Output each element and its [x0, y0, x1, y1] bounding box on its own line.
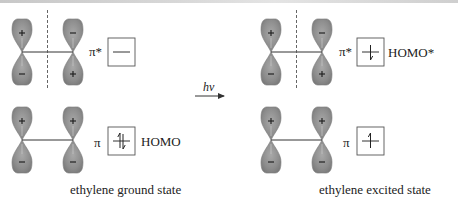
- ground-pi-electron-box: [108, 127, 135, 155]
- ground-pi-left-bottom-lobe: [12, 140, 32, 173]
- ground-pi-star-left-bottom-lobe: [12, 52, 32, 85]
- ground-pi-star-electron-box: [108, 38, 135, 66]
- ground-pi-orbital: [12, 107, 83, 173]
- excited-pi-star-label: π*: [339, 45, 352, 58]
- excited-pi-star-right-bottom-lobe: [312, 52, 332, 85]
- excited-pi-left-bottom-lobe: [261, 140, 281, 173]
- ground-pi-right-bottom-lobe: [63, 140, 83, 173]
- ground-pi-label: π: [94, 136, 101, 149]
- ground-homo-label: HOMO: [141, 135, 181, 148]
- excited-pi-right-bottom-lobe: [312, 140, 332, 173]
- excited-pi-star-electron-box: [357, 38, 384, 66]
- ground-pi-star-right-bottom-lobe: [63, 52, 83, 85]
- excited-pi-star-right-top-lobe: [312, 19, 332, 52]
- transition-label: hν: [203, 81, 214, 93]
- ground-pi-star-orbital: [12, 10, 83, 90]
- ground-pi-star-label: π*: [89, 45, 102, 58]
- excited-homo-star-label: HOMO*: [388, 46, 434, 59]
- ground-pi-star-right-top-lobe: [63, 19, 83, 52]
- orbital-diagram: [0, 0, 458, 207]
- excited-pi-electron-box: [357, 127, 384, 155]
- excited-pi-star-left-bottom-lobe: [261, 52, 281, 85]
- excited-pi-label: π: [343, 136, 350, 149]
- ground-state-caption: ethylene ground state: [70, 182, 181, 198]
- excited-pi-star-orbital: [261, 10, 332, 90]
- excited-state-caption: ethylene excited state: [319, 182, 431, 198]
- excited-pi-orbital: [261, 107, 332, 173]
